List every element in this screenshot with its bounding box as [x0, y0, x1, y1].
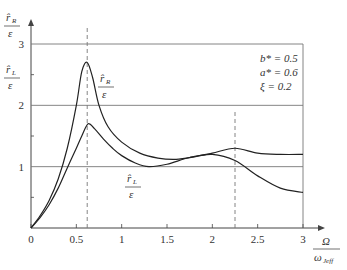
svg-text:r̂: r̂	[100, 72, 105, 84]
svg-text:L: L	[11, 69, 16, 77]
svg-text:ε: ε	[102, 88, 107, 100]
chart-canvas: 00.511.522.53 123 r̂ R ε r̂ L ε r̂ R ε r…	[0, 0, 347, 270]
x-ticks: 00.511.522.53	[28, 224, 306, 245]
y-axis-label-rR: r̂ R ε	[4, 11, 20, 39]
x-axis-arrow-icon	[318, 225, 325, 231]
svg-text:ω: ω	[314, 251, 322, 263]
y-axis-label-rL: r̂ L ε	[4, 63, 20, 91]
svg-text:ε: ε	[8, 79, 13, 91]
svg-text:R: R	[11, 17, 17, 25]
y-axis-arrow-icon	[28, 19, 34, 26]
curve-label-rR: r̂ R ε	[98, 72, 114, 100]
svg-text:r̂: r̂	[6, 11, 11, 23]
svg-text:r̂: r̂	[6, 63, 11, 75]
svg-text:ε: ε	[8, 27, 13, 39]
param-xi: ξ = 0.2	[260, 80, 292, 93]
x-tick-label: 1	[119, 233, 125, 245]
x-tick-label: 0.5	[69, 233, 83, 245]
x-tick-label: 0	[28, 233, 34, 245]
param-b: b* = 0.5	[260, 52, 298, 64]
svg-text:Ω: Ω	[322, 235, 330, 247]
y-tick-label: 2	[19, 99, 25, 111]
x-tick-label: 1.5	[160, 233, 174, 245]
y-tick-label: 3	[19, 38, 25, 50]
x-tick-label: 2	[210, 233, 216, 245]
curve-label-rL: r̂ L ε	[125, 172, 141, 200]
x-tick-label: 2.5	[251, 233, 265, 245]
svg-text:ε: ε	[129, 188, 134, 200]
parameter-legend: b* = 0.5 a* = 0.6 ξ = 0.2	[260, 52, 298, 93]
svg-text:L: L	[132, 178, 137, 186]
svg-text:r̂: r̂	[127, 172, 132, 184]
y-tick-label: 1	[19, 161, 25, 173]
x-tick-label: 3	[300, 233, 306, 245]
series-rL-line	[31, 123, 303, 228]
x-axis-label: Ω ω Jeff	[313, 235, 340, 265]
svg-text:R: R	[105, 78, 111, 86]
svg-text:Jeff: Jeff	[323, 257, 334, 265]
y-ticks: 123	[19, 38, 35, 197]
param-a: a* = 0.6	[260, 66, 298, 78]
